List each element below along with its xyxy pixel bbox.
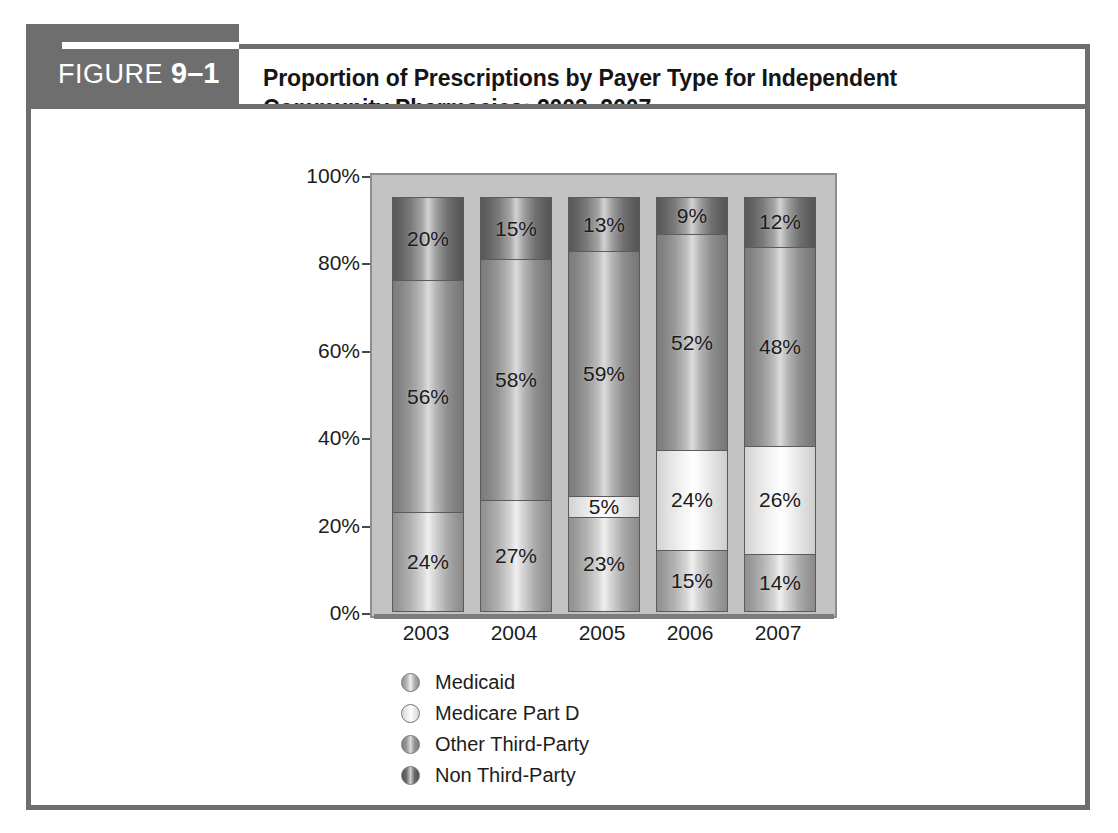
bar-segment[interactable]: 26% — [744, 446, 816, 554]
figure-label: FIGURE 9–1 — [58, 57, 219, 90]
legend-item[interactable]: Medicaid — [401, 667, 801, 698]
bar-segment-label: 26% — [759, 488, 801, 512]
bar-segment-label: 24% — [671, 488, 713, 512]
x-axis-line — [374, 614, 834, 619]
y-axis-tick-label: 60% — [318, 339, 360, 363]
bar-segment-label: 48% — [759, 335, 801, 359]
bar-stack: 27%58%15% — [480, 197, 552, 612]
bar-segment-label: 9% — [677, 204, 707, 228]
bar-segment[interactable]: 12% — [744, 197, 816, 247]
x-axis-label: 2005 — [557, 621, 647, 645]
bar-stack: 14%26%48%12% — [744, 197, 816, 612]
bar-segment[interactable]: 27% — [480, 500, 552, 612]
chart-legend: MedicaidMedicare Part DOther Third-Party… — [401, 667, 801, 791]
bar-segment-label: 13% — [583, 213, 625, 237]
figure-root: FIGURE 9–1 Proportion of Prescriptions b… — [0, 0, 1118, 833]
bar-segment[interactable]: 24% — [392, 512, 464, 612]
figure-title-line-1: Proportion of Prescriptions by Payer Typ… — [263, 63, 1065, 93]
x-axis-label: 2003 — [381, 621, 471, 645]
figure-body: 0%20%40%60%80%100% 24%56%20%27%58%15%23%… — [26, 104, 1090, 810]
bar-segment-label: 12% — [759, 210, 801, 234]
bar-segment[interactable]: 15% — [480, 197, 552, 259]
bar-segment-label: 5% — [589, 496, 619, 517]
legend-item-label: Non Third-Party — [435, 764, 576, 787]
x-axis-labels: 20032004200520062007 — [370, 621, 837, 655]
x-axis-label: 2007 — [733, 621, 823, 645]
bar-segment[interactable]: 24% — [656, 450, 728, 550]
figure-number: 9–1 — [171, 57, 219, 89]
figure-label-word: FIGURE — [58, 59, 163, 89]
y-axis-tick-label: 20% — [318, 514, 360, 538]
y-axis: 0%20%40%60%80%100% — [286, 165, 372, 625]
legend-item[interactable]: Non Third-Party — [401, 760, 801, 791]
legend-item-label: Medicaid — [435, 671, 515, 694]
bar-segment-label: 56% — [407, 385, 449, 409]
bar-segment[interactable]: 48% — [744, 247, 816, 446]
stacked-bar-chart: 0%20%40%60%80%100% 24%56%20%27%58%15%23%… — [31, 109, 1085, 805]
bar-stack: 15%24%52%9% — [656, 197, 728, 612]
bar-segment-label: 58% — [495, 368, 537, 392]
bar-segment[interactable]: 5% — [568, 496, 640, 517]
bar-segment-label: 59% — [583, 362, 625, 386]
x-axis-label: 2006 — [645, 621, 735, 645]
bar-segment-label: 27% — [495, 544, 537, 568]
bar-column[interactable]: 27%58%15% — [480, 197, 552, 612]
bar-stack: 24%56%20% — [392, 197, 464, 612]
legend-swatch-medicaid-icon — [401, 673, 420, 692]
bar-segment-label: 23% — [583, 552, 625, 576]
bars-container: 24%56%20%27%58%15%23%5%59%13%15%24%52%9%… — [372, 175, 835, 616]
bar-segment-label: 20% — [407, 227, 449, 251]
bar-segment[interactable]: 15% — [656, 550, 728, 612]
legend-item[interactable]: Medicare Part D — [401, 698, 801, 729]
bar-segment[interactable]: 14% — [744, 554, 816, 612]
y-axis-tick-label: 80% — [318, 251, 360, 275]
legend-swatch-other-icon — [401, 735, 420, 754]
bar-segment[interactable]: 59% — [568, 251, 640, 496]
legend-swatch-medicare-icon — [401, 704, 420, 723]
bar-segment-label: 14% — [759, 571, 801, 595]
bar-segment[interactable]: 20% — [392, 197, 464, 280]
bar-stack: 23%5%59%13% — [568, 197, 640, 612]
legend-item-label: Other Third-Party — [435, 733, 589, 756]
legend-item[interactable]: Other Third-Party — [401, 729, 801, 760]
bar-segment-label: 15% — [671, 569, 713, 593]
y-axis-tick-label: 40% — [318, 426, 360, 450]
bar-segment[interactable]: 13% — [568, 197, 640, 251]
bar-segment[interactable]: 58% — [480, 259, 552, 500]
legend-swatch-nonthird-icon — [401, 766, 420, 785]
bar-segment[interactable]: 52% — [656, 234, 728, 450]
bar-column[interactable]: 24%56%20% — [392, 197, 464, 612]
plot-area: 24%56%20%27%58%15%23%5%59%13%15%24%52%9%… — [370, 173, 837, 618]
bar-segment-label: 24% — [407, 550, 449, 574]
bar-segment-label: 15% — [495, 217, 537, 241]
bar-segment[interactable]: 23% — [568, 517, 640, 612]
y-axis-tick-label: 100% — [306, 164, 360, 188]
bar-segment-label: 52% — [671, 331, 713, 355]
badge-rule-top — [62, 42, 239, 49]
legend-item-label: Medicare Part D — [435, 702, 580, 725]
x-axis-label: 2004 — [469, 621, 559, 645]
bar-column[interactable]: 14%26%48%12% — [744, 197, 816, 612]
bar-segment[interactable]: 56% — [392, 280, 464, 512]
bar-segment[interactable]: 9% — [656, 197, 728, 234]
y-axis-tick-label: 0% — [330, 601, 360, 625]
bar-column[interactable]: 23%5%59%13% — [568, 197, 640, 612]
bar-column[interactable]: 15%24%52%9% — [656, 197, 728, 612]
